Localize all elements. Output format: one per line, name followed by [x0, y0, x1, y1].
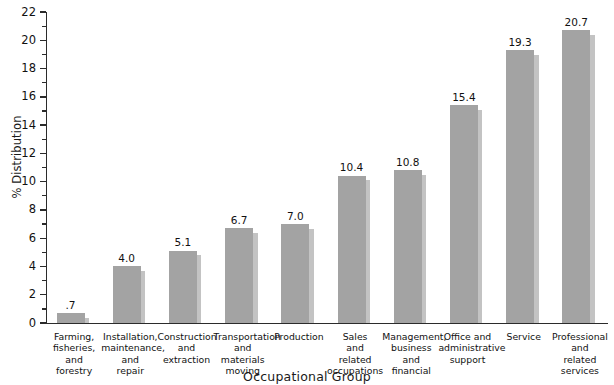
bar[interactable] — [394, 170, 422, 323]
y-tick-label: 6 — [12, 233, 36, 245]
y-tick-major — [40, 266, 46, 267]
y-tick-label: 16 — [12, 91, 36, 103]
y-tick-label: 4 — [12, 261, 36, 273]
bar[interactable] — [57, 313, 85, 323]
bar[interactable] — [281, 224, 309, 323]
x-category-label: Construction and extraction — [157, 331, 215, 365]
y-tick-major — [40, 40, 46, 41]
y-tick-major — [40, 238, 46, 239]
bar-value-label: .7 — [49, 300, 93, 311]
bar[interactable] — [169, 251, 197, 323]
x-category-label: Office and administrative support — [438, 331, 496, 365]
bar-value-label: 20.7 — [554, 17, 598, 28]
y-tick-minor — [42, 82, 46, 83]
y-tick-minor — [42, 308, 46, 309]
y-tick-minor — [42, 110, 46, 111]
y-tick-label: 2 — [12, 289, 36, 301]
x-axis-title: Occupational Group — [0, 369, 614, 384]
bar[interactable] — [562, 30, 590, 323]
bar[interactable] — [506, 50, 534, 323]
y-tick-minor — [42, 139, 46, 140]
bar-value-label: 15.4 — [442, 92, 486, 103]
y-tick-minor — [42, 167, 46, 168]
y-tick-major — [40, 11, 46, 12]
y-tick-major — [40, 124, 46, 125]
y-tick-label: 20 — [12, 35, 36, 47]
bar-value-label: 4.0 — [105, 253, 149, 264]
bar[interactable] — [338, 176, 366, 323]
y-tick-minor — [42, 223, 46, 224]
bar-value-label: 10.4 — [330, 162, 374, 173]
bar-value-label: 19.3 — [498, 37, 542, 48]
y-tick-minor — [42, 280, 46, 281]
y-tick-major — [40, 153, 46, 154]
y-tick-major — [40, 181, 46, 182]
y-tick-minor — [42, 195, 46, 196]
y-tick-minor — [42, 26, 46, 27]
y-tick-major — [40, 68, 46, 69]
bar-value-label: 5.1 — [161, 237, 205, 248]
y-tick-label: 22 — [12, 7, 36, 19]
chart-canvas: % Distribution 0246810121416182022 .74.0… — [0, 0, 614, 385]
y-tick-label: 14 — [12, 120, 36, 132]
y-tick-major — [40, 96, 46, 97]
x-category-label: Production — [270, 331, 328, 342]
y-tick-label: 10 — [12, 176, 36, 188]
bar-value-label: 10.8 — [386, 157, 430, 168]
y-tick-label: 0 — [12, 318, 36, 330]
x-axis-line — [46, 323, 608, 324]
y-tick-label: 8 — [12, 204, 36, 216]
bar[interactable] — [450, 105, 478, 323]
y-tick-label: 12 — [12, 148, 36, 160]
bar[interactable] — [225, 228, 253, 323]
x-category-label: Service — [495, 331, 553, 342]
y-tick-label: 18 — [12, 63, 36, 75]
bar-value-label: 7.0 — [273, 211, 317, 222]
y-axis-line — [46, 12, 47, 324]
bar-value-label: 6.7 — [217, 215, 261, 226]
bar[interactable] — [113, 266, 141, 323]
y-tick-major — [40, 322, 46, 323]
y-tick-major — [40, 294, 46, 295]
y-tick-major — [40, 209, 46, 210]
y-tick-minor — [42, 54, 46, 55]
y-tick-minor — [42, 252, 46, 253]
